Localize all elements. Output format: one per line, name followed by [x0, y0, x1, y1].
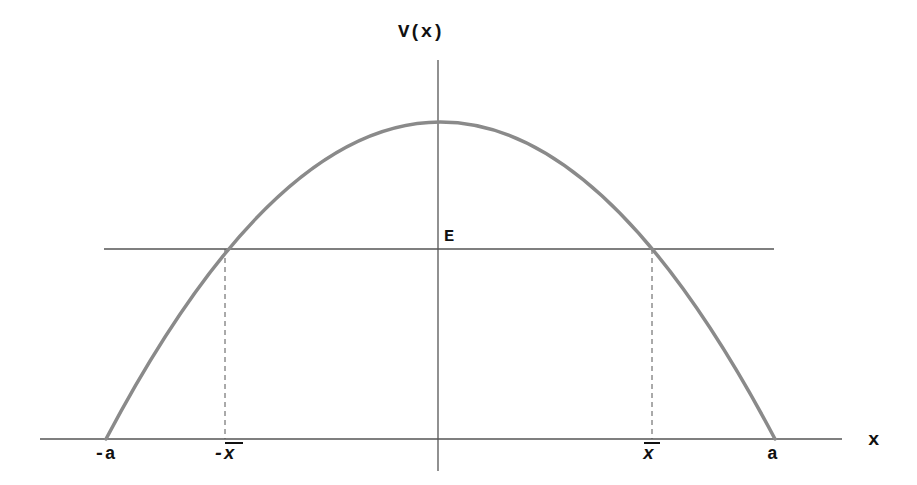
x-axis-label: x	[868, 429, 879, 451]
tick-label-neg-a: -a	[94, 444, 116, 464]
potential-diagram: V(x) x E -a -x x a	[0, 0, 917, 485]
potential-curve	[106, 122, 775, 439]
v-axis-label: V(x)	[398, 21, 444, 43]
tick-label-pos-xbar: x	[642, 444, 655, 464]
tick-label-neg-xbar: -x	[213, 444, 236, 464]
energy-label: E	[444, 227, 454, 246]
tick-label-pos-a: a	[767, 444, 778, 464]
